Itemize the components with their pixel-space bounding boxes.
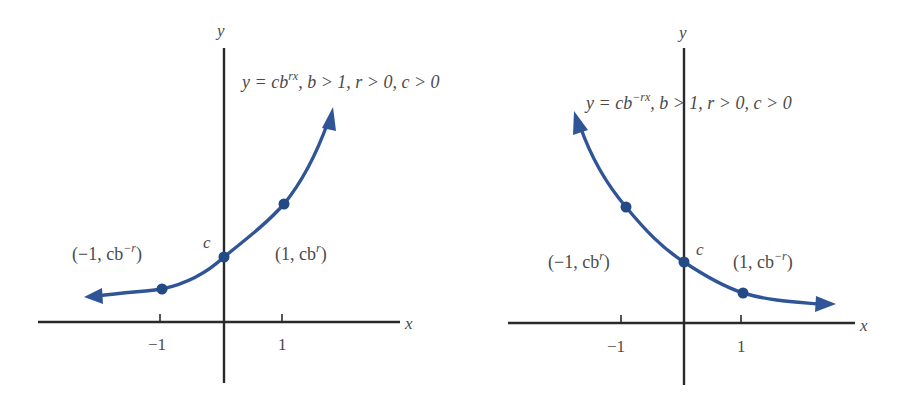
point-intercept (679, 257, 690, 268)
y-axis-label: y (677, 23, 687, 42)
tick-label-1: 1 (278, 335, 287, 354)
curve-arrow-up-right (322, 107, 336, 131)
intercept-label: c (696, 240, 704, 259)
curve-arrow-up-left (573, 111, 588, 135)
tick-label-neg1: −1 (148, 335, 166, 354)
tick-label-1: 1 (737, 337, 746, 356)
point-neg1-label: (−1, cbr) (548, 249, 610, 273)
point-1-label: (1, cbr) (275, 241, 327, 265)
tick-label-neg1: −1 (607, 337, 625, 356)
growth-equation: y = cbrx, b > 1, r > 0, c > 0 (240, 69, 440, 92)
decay-graph: x y −1 1 c (−1, cbr) (1, cb−r) y = cb−rx… (508, 23, 868, 385)
growth-graph: x y −1 1 c (−1, cb−r) (1, cbr) y = cbrx,… (38, 21, 440, 383)
curve-arrow-left (84, 288, 103, 304)
curve-arrow-right (815, 296, 836, 312)
x-axis-label: x (859, 316, 868, 335)
intercept-label: c (203, 233, 211, 252)
point-neg1 (157, 284, 168, 295)
point-1 (279, 199, 290, 210)
decay-curve (580, 126, 818, 304)
y-axis-label: y (215, 21, 225, 40)
point-neg1-label: (−1, cb−r) (72, 241, 142, 265)
point-intercept (219, 252, 230, 263)
decay-equation: y = cb−rx, b > 1, r > 0, c > 0 (584, 90, 792, 113)
point-neg1 (621, 202, 632, 213)
growth-curve (96, 122, 328, 296)
point-1 (738, 288, 749, 299)
exponential-graphs-figure: x y −1 1 c (−1, cb−r) (1, cbr) y = cbrx,… (0, 0, 897, 404)
point-1-label: (1, cb−r) (733, 249, 793, 273)
x-axis-label: x (404, 314, 413, 333)
